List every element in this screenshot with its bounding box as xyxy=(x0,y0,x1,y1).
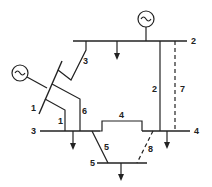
load-bus-5-arrow-icon xyxy=(118,163,124,181)
line-2: 2 xyxy=(152,41,160,131)
bus-5-label: 5 xyxy=(90,158,95,168)
bus-4-label: 4 xyxy=(194,126,199,136)
line-3: 3 xyxy=(58,41,88,80)
line-1-label: 1 xyxy=(58,116,63,126)
line-8-label: 8 xyxy=(148,144,153,154)
load-bus-2-arrow-icon xyxy=(114,41,120,60)
bus-1-label: 1 xyxy=(31,103,36,113)
generator-bus-1-icon xyxy=(12,65,47,88)
bus-4: 4 xyxy=(142,126,199,136)
line-7: 7 xyxy=(175,41,185,131)
line-4-label: 4 xyxy=(119,110,124,120)
line-3-label: 3 xyxy=(83,56,88,66)
bus-2: 2 xyxy=(73,36,196,46)
load-bus-3-arrow-icon xyxy=(70,131,76,150)
line-6-label: 6 xyxy=(82,106,87,116)
line-5-label: 5 xyxy=(104,142,109,152)
power-system-diagram: 2 2 7 4 3 4 xyxy=(0,0,212,187)
generator-bus-2-icon xyxy=(138,11,154,41)
bus-2-label: 2 xyxy=(191,36,196,46)
load-bus-4-arrow-icon xyxy=(164,131,170,149)
line-8: 8 xyxy=(137,131,153,163)
line-4: 4 xyxy=(100,110,142,131)
line-2-label: 2 xyxy=(152,84,157,94)
bus-3-label: 3 xyxy=(31,126,36,136)
line-1: 1 xyxy=(45,99,65,131)
line-7-label: 7 xyxy=(180,84,185,94)
